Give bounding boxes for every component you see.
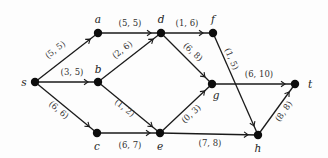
node-label-s: s — [21, 76, 27, 88]
edge-label-f-h: (1, 5) — [223, 46, 241, 71]
node-label-f: f — [210, 13, 217, 25]
flow-network-diagram: (5, 5)(3, 5)(6, 6)(5, 5)(2, 6)(1, 2)(6, … — [0, 0, 328, 158]
node-e — [156, 129, 164, 137]
edge-line — [160, 133, 258, 135]
node-d — [157, 29, 165, 37]
node-c — [93, 129, 101, 137]
edge-label-s-a: (5, 5) — [43, 39, 67, 61]
node-h — [254, 131, 262, 139]
node-s — [31, 78, 39, 86]
edge-e-g — [160, 84, 212, 133]
node-b — [94, 78, 102, 86]
edge-line — [35, 82, 97, 133]
edge-label-b-e: (1, 2) — [113, 97, 137, 119]
node-label-t: t — [308, 78, 313, 90]
edge-s-c — [35, 82, 97, 133]
edge-c-e — [97, 130, 160, 136]
node-label-c: c — [94, 140, 100, 152]
node-label-h: h — [255, 142, 262, 154]
node-g — [208, 80, 216, 88]
node-t — [291, 80, 299, 88]
node-label-b: b — [95, 63, 102, 75]
edge-b-d — [98, 33, 161, 82]
edge-label-d-f: (1, 6) — [176, 18, 199, 28]
edge-label-d-g: (6, 8) — [181, 40, 205, 63]
edge-label-s-b: (3, 5) — [61, 67, 84, 77]
edge-d-f — [161, 30, 213, 36]
node-label-d: d — [158, 13, 165, 25]
node-label-a: a — [95, 13, 101, 25]
node-a — [94, 29, 102, 37]
edge-label-c-e: (6, 7) — [119, 140, 142, 150]
node-label-e: e — [157, 140, 163, 152]
edge-label-e-g: (0, 3) — [179, 102, 203, 125]
edges-layer — [35, 30, 295, 137]
edge-label-e-h: (7, 8) — [199, 138, 222, 148]
edge-label-g-t: (6, 10) — [245, 69, 273, 79]
edge-s-b — [35, 79, 98, 85]
node-label-g: g — [213, 89, 220, 101]
edge-line — [98, 33, 161, 82]
edge-e-h — [160, 132, 258, 138]
edge-a-d — [98, 30, 161, 36]
node-f — [209, 29, 217, 37]
edge-g-t — [212, 81, 295, 87]
edge-label-a-d: (5, 5) — [119, 18, 142, 28]
edge-label-h-t: (8, 8) — [273, 99, 294, 123]
